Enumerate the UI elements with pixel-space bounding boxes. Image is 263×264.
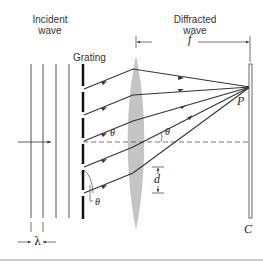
incident-wavefronts xyxy=(31,64,69,218)
incident-wave-label: Incident wave xyxy=(30,14,70,36)
incident-label-line2: wave xyxy=(30,25,70,36)
point-p-label: P xyxy=(237,96,244,107)
angle-theta-right: θ xyxy=(165,126,170,137)
angle-theta-top: θ xyxy=(110,127,115,138)
focal-length-marker xyxy=(136,36,250,62)
diffracted-label-line1: Diffracted xyxy=(165,14,225,25)
screen xyxy=(249,64,252,218)
diffraction-grating-diagram: Incident wave Grating Diffracted wave f … xyxy=(0,0,263,264)
focal-length-label: f xyxy=(188,34,191,45)
incident-label-line1: Incident xyxy=(30,14,70,25)
wavelength-label: λ xyxy=(34,236,41,247)
diffracted-wave-label: Diffracted wave xyxy=(165,14,225,36)
screen-c-label: C xyxy=(244,224,252,235)
diagram-canvas xyxy=(0,0,263,264)
angle-arc-right xyxy=(161,132,162,142)
slit-spacing-label: d xyxy=(154,174,160,185)
angle-theta-bottom: θ xyxy=(95,196,100,207)
grating-label: Grating xyxy=(73,52,106,63)
diffracted-label-line2: wave xyxy=(165,25,225,36)
